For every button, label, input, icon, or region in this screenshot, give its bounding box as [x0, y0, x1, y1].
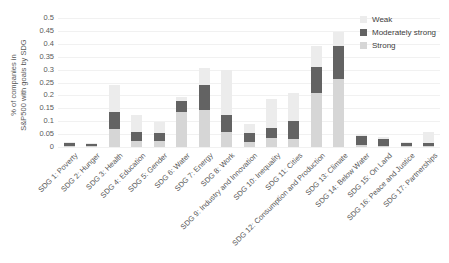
y-tick-label-0.3: 0.3 — [24, 66, 54, 74]
bar-14-strong — [356, 145, 367, 147]
legend-swatch-moderately-strong — [360, 29, 367, 36]
sdg-stacked-bar-chart: % of companies in S&P500 with goals by S… — [0, 0, 449, 263]
bar-2-strong — [86, 146, 97, 147]
legend-label-moderately-strong: Moderately strong — [372, 28, 436, 37]
bar-15-strong — [378, 146, 389, 147]
bar-3-weak — [109, 85, 120, 112]
bar-5-moderately-strong — [154, 133, 165, 141]
bar-4-strong — [131, 141, 142, 147]
y-tick-label-0.1: 0.1 — [24, 117, 54, 125]
bar-1-weak — [64, 142, 75, 143]
bar-5-weak — [154, 122, 165, 133]
bar-7-weak — [199, 68, 210, 85]
bar-1-strong — [64, 146, 75, 147]
legend-item-strong: Strong — [360, 39, 436, 52]
bar-11-strong — [288, 139, 299, 147]
bar-7-strong — [199, 110, 210, 147]
y-tick-label-0.45: 0.45 — [24, 27, 54, 35]
legend-item-moderately-strong: Moderately strong — [360, 26, 436, 39]
bar-12-strong — [311, 93, 322, 147]
bar-14-weak — [356, 134, 367, 137]
y-tick-label-0.35: 0.35 — [24, 53, 54, 61]
bar-6-moderately-strong — [176, 101, 187, 113]
bar-3-moderately-strong — [109, 112, 120, 129]
bar-17-strong — [423, 146, 434, 147]
bar-17-moderately-strong — [423, 143, 434, 146]
bar-4-weak — [131, 115, 142, 132]
y-tick-label-0.2: 0.2 — [24, 91, 54, 99]
bar-16-moderately-strong — [401, 143, 412, 146]
bar-8-strong — [221, 132, 232, 147]
bar-11-weak — [288, 93, 299, 121]
bar-10-weak — [266, 99, 277, 127]
bar-10-moderately-strong — [266, 128, 277, 138]
bar-15-moderately-strong — [378, 139, 389, 145]
bar-7-moderately-strong — [199, 85, 210, 110]
bar-6-weak — [176, 97, 187, 100]
bar-2-moderately-strong — [86, 144, 97, 146]
legend-swatch-strong — [360, 42, 367, 49]
legend-label-strong: Strong — [372, 41, 396, 50]
bar-3-strong — [109, 129, 120, 147]
legend: Weak Moderately strong Strong — [360, 13, 436, 52]
bar-17-weak — [423, 132, 434, 143]
gridline-0.25 — [58, 83, 440, 84]
legend-item-weak: Weak — [360, 13, 436, 26]
y-tick-label-0.25: 0.25 — [24, 79, 54, 87]
gridline-0.35 — [58, 57, 440, 58]
bar-4-moderately-strong — [131, 132, 142, 141]
bar-16-strong — [401, 146, 412, 147]
bar-14-moderately-strong — [356, 136, 367, 145]
y-tick-label-0.15: 0.15 — [24, 104, 54, 112]
bar-11-moderately-strong — [288, 121, 299, 139]
bar-13-strong — [333, 79, 344, 147]
y-tick-label-0.5: 0.5 — [24, 14, 54, 22]
legend-swatch-weak — [360, 16, 367, 23]
bar-13-moderately-strong — [333, 46, 344, 78]
bar-12-weak — [311, 46, 322, 67]
gridline-0.3 — [58, 70, 440, 71]
bar-9-moderately-strong — [244, 133, 255, 142]
legend-label-weak: Weak — [372, 15, 392, 24]
gridline-0 — [58, 147, 440, 148]
bar-8-moderately-strong — [221, 115, 232, 132]
bar-13-weak — [333, 32, 344, 46]
bar-10-strong — [266, 138, 277, 147]
y-tick-label-0: 0 — [24, 143, 54, 151]
bar-5-strong — [154, 141, 165, 147]
bar-9-weak — [244, 124, 255, 133]
bar-16-weak — [401, 142, 412, 143]
bar-12-moderately-strong — [311, 67, 322, 93]
bar-2-weak — [86, 143, 97, 144]
bar-1-moderately-strong — [64, 143, 75, 146]
y-tick-label-0.4: 0.4 — [24, 40, 54, 48]
bar-8-weak — [221, 70, 232, 115]
y-tick-label-0.05: 0.05 — [24, 130, 54, 138]
bar-15-weak — [378, 137, 389, 139]
bar-9-strong — [244, 142, 255, 147]
bar-6-strong — [176, 112, 187, 147]
